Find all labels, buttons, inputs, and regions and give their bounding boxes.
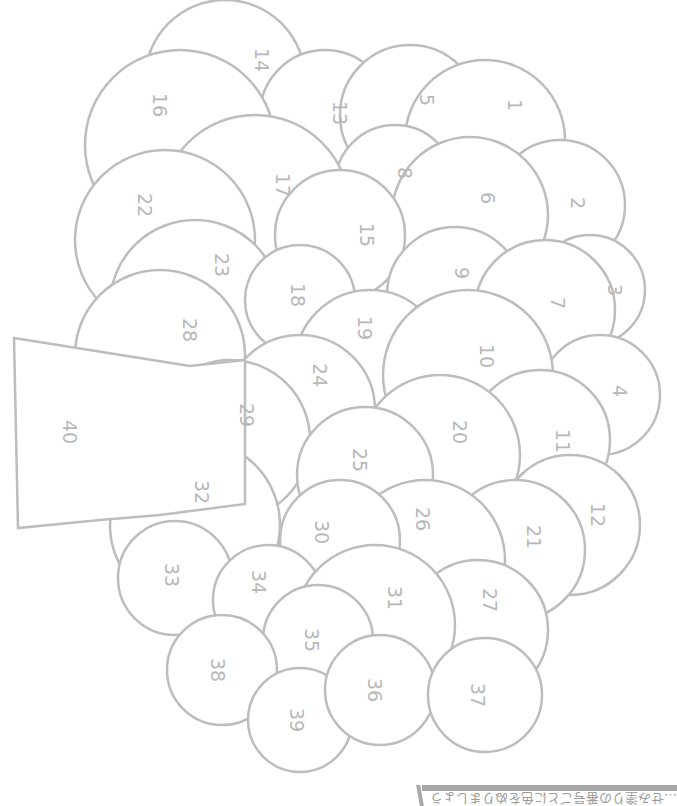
region-36[interactable] [325,635,435,745]
coloring-diagram: 40 1413511682617153229723182841910112429… [0,0,677,806]
neck-region-group: 40 [14,338,245,528]
region-40-neck[interactable] [14,338,245,528]
region-37[interactable] [428,638,542,752]
footer-instruction-text: …せみ塗りの番号ごとに色をぬりましょう [430,791,677,806]
